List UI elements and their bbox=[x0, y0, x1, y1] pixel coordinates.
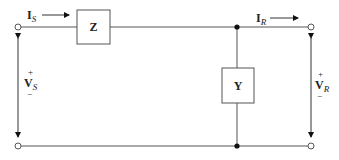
receiving-current-label: IR bbox=[256, 11, 267, 27]
receiving-top-terminal bbox=[308, 24, 314, 30]
top-junction-node bbox=[234, 24, 239, 29]
sending-current-label: IS bbox=[27, 8, 37, 24]
receiving-bottom-terminal bbox=[308, 143, 314, 149]
bottom-junction-node bbox=[234, 143, 239, 148]
circuit-diagram: Z Y IS IR + VS − + VR − bbox=[0, 0, 339, 160]
receiving-voltage-minus: − bbox=[317, 91, 322, 101]
shunt-admittance-label: Y bbox=[234, 79, 243, 93]
sending-voltage-minus: − bbox=[27, 89, 32, 99]
series-impedance-label: Z bbox=[89, 20, 97, 34]
sending-top-terminal bbox=[15, 24, 21, 30]
sending-bottom-terminal bbox=[15, 143, 21, 149]
